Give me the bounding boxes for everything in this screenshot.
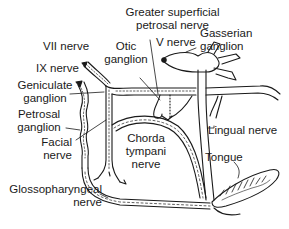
- label-line: ganglion: [12, 92, 78, 105]
- label-v-nerve: V nerve: [156, 36, 196, 49]
- tongue-shape: [212, 169, 279, 214]
- leader-lines: [66, 40, 239, 198]
- label-line: nerve: [26, 149, 72, 162]
- label-line: tympani: [118, 145, 174, 158]
- label-gasserian-ganglion: Gasserian ganglion: [200, 27, 252, 53]
- label-line: nerve: [2, 196, 102, 209]
- label-line: Geniculate: [12, 79, 78, 92]
- label-otic-ganglion: Otic ganglion: [100, 40, 152, 66]
- side-branches: [210, 96, 222, 118]
- label-line: ganglion: [10, 121, 68, 134]
- label-line: Chorda: [118, 132, 174, 145]
- label-chorda-tympani-nerve: Chorda tympani nerve: [118, 132, 174, 171]
- label-line: ganglion: [100, 53, 152, 66]
- label-line: Otic: [100, 40, 152, 53]
- label-tongue: Tongue: [205, 151, 243, 164]
- label-line: Glossopharyngeal: [2, 183, 102, 196]
- label-lingual-nerve: Lingual nerve: [208, 124, 277, 137]
- label-petrosal-ganglion: Petrosal ganglion: [10, 108, 68, 134]
- label-line: Greater superficial: [115, 6, 230, 19]
- label-ix-nerve: IX nerve: [36, 62, 79, 75]
- label-line: nerve: [118, 158, 174, 171]
- label-line: Gasserian: [200, 27, 252, 40]
- label-facial-nerve: Facial nerve: [26, 136, 72, 162]
- label-line: Facial: [26, 136, 72, 149]
- label-geniculate-ganglion: Geniculate ganglion: [12, 79, 78, 105]
- label-vii-nerve: VII nerve: [43, 40, 89, 53]
- label-line: Petrosal: [10, 108, 68, 121]
- label-glossopharyngeal-nerve: Glossopharyngeal nerve: [2, 183, 102, 209]
- nerve-pathway-diagram: Greater superficial petrosal nerve V ner…: [0, 0, 289, 229]
- label-line: ganglion: [200, 40, 252, 53]
- greater-petrosal-nerve: [106, 86, 280, 100]
